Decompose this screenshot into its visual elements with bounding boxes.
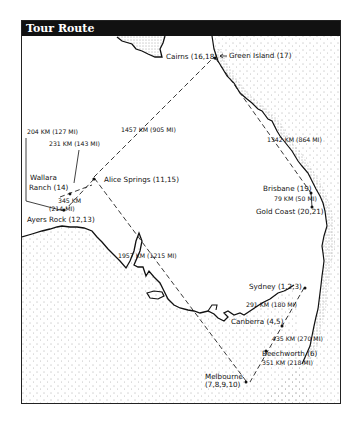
label-beechworth: Beechworth (6) — [262, 349, 318, 358]
label-leg-brisbane-goldcoast: 79 KM (50 MI) — [274, 195, 317, 202]
label-leg-alice-ayers-1: 345 KM — [58, 197, 81, 204]
gulf-sea — [117, 36, 165, 57]
label-leg-cairns-brisbane: 1342 KM (864 MI) — [267, 136, 322, 143]
label-sydney: Sydney (1,2,3) — [249, 282, 302, 291]
label-leg-alice-cairns: 1457 KM (905 MI) — [121, 126, 176, 133]
map-canvas: Cairns (16,18) Green Island (17) Brisban… — [22, 21, 341, 404]
map-title: Tour Route — [26, 21, 94, 36]
label-melbourne-2: (7,8,9,10) — [205, 380, 241, 389]
tour-route-map-panel: Cairns (16,18) Green Island (17) Brisban… — [21, 20, 341, 404]
port-phillip-bay — [208, 305, 217, 311]
label-brisbane: Brisbane (19) — [263, 184, 312, 193]
label-leg-beechworth-melbourne: 351 KM (218 MI) — [262, 359, 313, 366]
marker-alice — [92, 177, 95, 180]
label-alice-springs: Alice Springs (11,15) — [104, 175, 179, 184]
label-leg-canberra-beechworth: 435 KM (270 MI) — [272, 335, 323, 342]
route-alice-cairns — [94, 57, 214, 177]
label-wallara-2: Ranch (14) — [29, 183, 69, 192]
label-leg-ayers-wallara: 204 KM (127 MI) — [27, 128, 78, 135]
label-leg-wallara-alice: 231 KM (143 MI) — [49, 140, 100, 147]
label-leg-alice-ayers-2: (214 MI) — [49, 205, 75, 212]
label-cairns: Cairns (16,18) — [166, 52, 217, 61]
label-canberra: Canberra (4,5) — [231, 317, 284, 326]
marker-sydney — [304, 287, 307, 290]
title-bar: Tour Route — [22, 21, 340, 36]
leader-231km — [74, 150, 79, 183]
label-leg-melbourne-alice: 1957 KM (1215 MI) — [118, 252, 177, 259]
label-gold-coast: Gold Coast (20,21) — [256, 207, 324, 216]
label-wallara-1: Wallara — [30, 173, 57, 182]
marker-wallara — [69, 193, 72, 196]
marker-melbourne — [245, 381, 248, 384]
label-leg-sydney-canberra: 291 KM (180 MI) — [246, 301, 297, 308]
label-ayers-rock: Ayers Rock (12,13) — [27, 215, 95, 224]
label-green-island: Green Island (17) — [229, 51, 292, 60]
